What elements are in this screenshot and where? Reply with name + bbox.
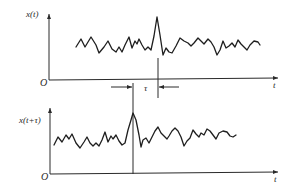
correlation-diagram: x(t) O t τ x(t+τ) O t — [0, 0, 295, 193]
top-x-axis-label: t — [273, 80, 276, 90]
bottom-y-axis-label: x(t+τ) — [18, 115, 41, 125]
bottom-origin-label: O — [41, 171, 48, 182]
tau-label: τ — [144, 83, 148, 93]
bottom-x-axis — [50, 172, 278, 174]
bottom-x-axis-label: t — [274, 174, 277, 184]
bottom-plot: x(t+τ) O t — [18, 108, 278, 184]
top-origin-label: O — [40, 77, 47, 88]
bottom-signal-x-t-plus-tau — [54, 113, 236, 148]
top-x-axis — [49, 78, 278, 80]
tau-shift-annotation: τ — [111, 58, 179, 174]
top-signal-x-t — [76, 17, 260, 55]
top-plot: x(t) O t — [25, 9, 278, 90]
top-y-axis-label: x(t) — [25, 9, 39, 19]
